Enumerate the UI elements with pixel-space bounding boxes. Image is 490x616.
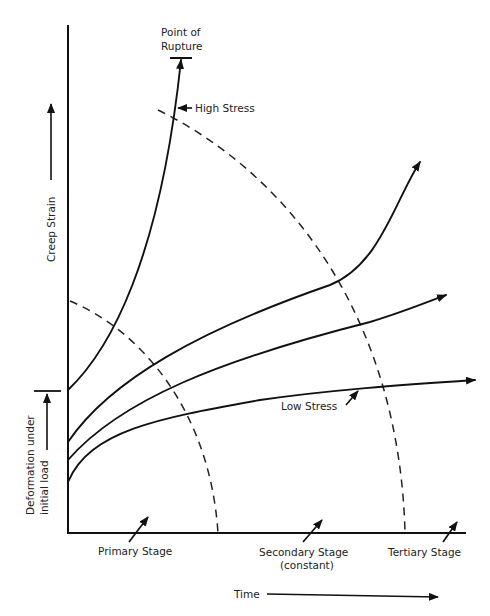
tertiary-stage-label: Tertiary Stage <box>387 546 461 558</box>
primary-stage-arrow-icon <box>129 517 148 542</box>
primary-secondary-boundary <box>70 301 218 533</box>
secondary-stage-sublabel: (constant) <box>280 559 334 571</box>
rupture-label-line1: Point of <box>161 26 201 38</box>
y-axis-label-group: Creep Strain <box>45 104 57 262</box>
intermediate-stress-curve-1 <box>68 162 420 442</box>
x-axis-label: Time <box>233 588 260 600</box>
axes <box>67 25 466 534</box>
time-arrow-icon <box>267 594 438 597</box>
primary-stage-label: Primary Stage <box>98 545 172 557</box>
rupture-label-line2: Rupture <box>161 40 202 52</box>
initial-deformation-label-line1: Deformation under <box>24 415 36 515</box>
initial-deformation-label-line2: initial load <box>38 460 50 515</box>
intermediate-stress-curve-2 <box>68 295 446 460</box>
secondary-tertiary-boundary <box>158 110 405 533</box>
high-stress-label: High Stress <box>195 102 255 114</box>
low-stress-label: Low Stress <box>281 400 337 412</box>
y-axis-label: Creep Strain <box>45 197 57 262</box>
secondary-stage-label: Secondary Stage <box>259 546 348 558</box>
low-stress-curve <box>68 380 475 482</box>
creep-diagram: Creep Strain Deformation under initial l… <box>0 0 490 616</box>
low-stress-pointer-icon <box>346 391 358 405</box>
secondary-stage-arrow-icon <box>303 520 322 542</box>
initial-deformation-label-group: Deformation under initial load <box>24 391 61 515</box>
high-stress-curve <box>68 60 181 390</box>
